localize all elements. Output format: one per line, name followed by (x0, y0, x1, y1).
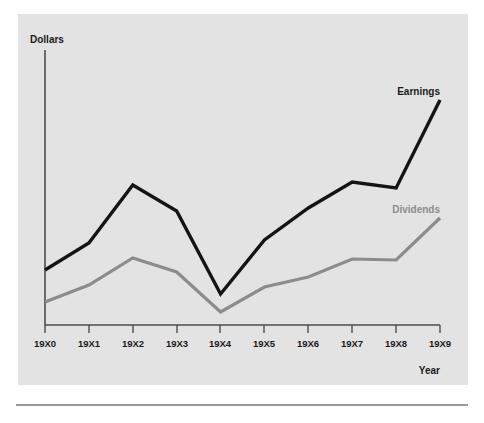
y-axis-title: Dollars (30, 34, 64, 45)
x-axis-ticks (45, 325, 440, 333)
x-axis-tick-labels: 19X0 19X1 19X2 19X3 19X4 19X5 19X6 19X7 … (34, 338, 451, 349)
x-tick-label-4: 19X4 (209, 338, 232, 349)
bottom-divider-rule (16, 404, 468, 406)
x-axis-title: Year (419, 365, 440, 376)
series-line-earnings (45, 100, 440, 294)
x-tick-label-9: 19X9 (429, 338, 451, 349)
series-label-earnings: Earnings (397, 86, 440, 97)
x-tick-label-8: 19X8 (385, 338, 407, 349)
series-label-dividends: Dividends (392, 204, 440, 215)
x-tick-label-2: 19X2 (122, 338, 144, 349)
x-tick-label-1: 19X1 (78, 338, 101, 349)
x-tick-label-5: 19X5 (253, 338, 276, 349)
x-tick-label-6: 19X6 (297, 338, 319, 349)
line-chart: 19X0 19X1 19X2 19X3 19X4 19X5 19X6 19X7 … (0, 0, 484, 423)
x-tick-label-3: 19X3 (166, 338, 188, 349)
x-tick-label-7: 19X7 (341, 338, 363, 349)
x-tick-label-0: 19X0 (34, 338, 56, 349)
figure-container: 19X0 19X1 19X2 19X3 19X4 19X5 19X6 19X7 … (0, 0, 484, 423)
